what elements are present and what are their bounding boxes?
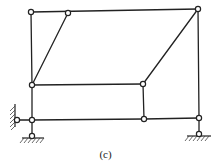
- hinge-icon-support-right: [196, 131, 201, 136]
- member-middle-beam: [32, 84, 143, 85]
- hinge-icon-b: [65, 10, 70, 15]
- member-left-diagonal: [32, 13, 68, 85]
- member-left-upper-column: [31, 12, 32, 85]
- hinge-icon-f: [29, 117, 34, 122]
- hinge-icon-support-left: [29, 133, 34, 138]
- member-right-column: [198, 9, 199, 118]
- frame-diagram: [0, 0, 211, 163]
- member-right-diagonal: [143, 9, 198, 84]
- wall-support-left: [10, 104, 15, 130]
- hinge-icon-a: [28, 9, 33, 14]
- hinge-icon-wall: [14, 117, 19, 122]
- member-top-beam: [31, 9, 198, 12]
- member-bottom-beam-right: [144, 118, 199, 119]
- wall-hatch-icon: [10, 106, 15, 130]
- hinge-icon-g: [141, 116, 146, 121]
- member-middle-column: [143, 84, 144, 119]
- ground-hatch-right-icon: [185, 136, 209, 141]
- hinge-icon-h: [196, 115, 201, 120]
- figure-caption: (c): [0, 148, 211, 160]
- member-bottom-beam-left: [32, 119, 144, 120]
- frame-members: [17, 9, 199, 136]
- hinge-icon-d: [29, 82, 34, 87]
- hinge-icon-c: [195, 6, 200, 11]
- hinge-icon-e: [140, 81, 145, 86]
